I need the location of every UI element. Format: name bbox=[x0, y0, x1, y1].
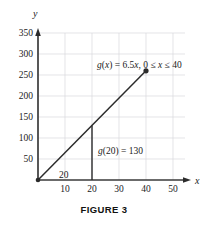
y-tick-label: 350 bbox=[19, 28, 34, 38]
x-axis-label: x bbox=[194, 175, 200, 186]
grid-vertical bbox=[65, 33, 173, 180]
x-tick-label: 10 bbox=[60, 184, 70, 194]
x-tick-labels: 10 20 30 40 50 bbox=[60, 184, 178, 194]
chart-plot: y x 350 300 250 200 150 100 50 10 20 30 … bbox=[0, 0, 208, 227]
y-axis-label: y bbox=[32, 8, 38, 19]
y-tick-label: 200 bbox=[19, 91, 34, 101]
x-tick-label: 20 bbox=[87, 184, 97, 194]
y-axis-arrowhead bbox=[35, 28, 41, 36]
equation-annotation: g(x) = 6.5x, 0 ≤ x ≤ 40 bbox=[97, 60, 182, 71]
y-tick-label: 50 bbox=[24, 154, 34, 164]
y-tick-label: 250 bbox=[19, 70, 34, 80]
y-tick-labels: 350 300 250 200 150 100 50 bbox=[19, 28, 34, 164]
x-tick-label: 50 bbox=[168, 184, 178, 194]
origin-point-marker bbox=[36, 178, 41, 183]
value-annotation: g(20) = 130 bbox=[98, 146, 143, 157]
run-annotation: 20 bbox=[59, 170, 69, 180]
y-tick-label: 100 bbox=[19, 133, 34, 143]
figure-caption: FIGURE 3 bbox=[0, 204, 208, 215]
grid-horizontal bbox=[38, 33, 185, 159]
x-tick-label: 30 bbox=[114, 184, 124, 194]
x-tick-label: 40 bbox=[141, 184, 151, 194]
x-axis-arrowhead bbox=[183, 177, 191, 183]
y-tick-label: 150 bbox=[19, 112, 34, 122]
y-axis bbox=[35, 28, 41, 180]
figure-container: y x 350 300 250 200 150 100 50 10 20 30 … bbox=[0, 0, 208, 227]
y-tick-label: 300 bbox=[19, 49, 34, 59]
